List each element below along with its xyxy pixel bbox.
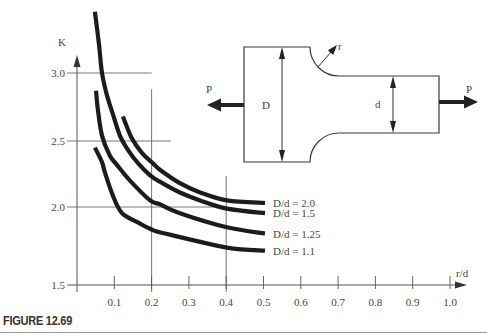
- arrow-up-icon: [390, 76, 396, 88]
- figure-caption: FIGURE 12.69: [3, 314, 72, 328]
- load-arrow-right: [439, 96, 478, 109]
- x-axis-arrow-icon: [455, 282, 467, 289]
- fillet-radius-label: r: [338, 40, 342, 52]
- arrow-down-icon: [390, 121, 396, 133]
- x-tick-label: 0.1: [107, 296, 121, 308]
- load-label-left: P: [206, 83, 212, 95]
- arrow-right-icon: [464, 96, 478, 109]
- y-tick-label: 2.0: [51, 201, 65, 213]
- x-tick-label: 0.5: [257, 296, 271, 308]
- divider: [0, 332, 487, 333]
- y-tick-labels: 1.52.02.53.0: [51, 67, 65, 291]
- specimen-diagram: D d r P P: [206, 40, 478, 162]
- x-ticks: 0.10.20.30.40.50.60.70.80.91.0: [107, 276, 457, 308]
- large-width-label: D: [262, 99, 270, 111]
- x-tick-label: 0.4: [219, 296, 233, 308]
- small-width-label: d: [375, 98, 381, 110]
- x-tick-label: 0.2: [145, 296, 159, 308]
- x-axis-label: r/d: [456, 267, 469, 279]
- x-tick-label: 1.0: [443, 296, 457, 308]
- x-tick-label: 0.9: [406, 296, 420, 308]
- series-labels: D/d = 2.0D/d = 1.5D/d = 1.25D/d = 1.1: [273, 197, 321, 257]
- arrow-down-icon: [279, 150, 285, 162]
- stepped-bar-outline: [244, 47, 439, 162]
- large-width-dimension: [279, 47, 285, 162]
- load-label-right: P: [466, 83, 472, 95]
- y-tick-label: 2.5: [51, 135, 65, 147]
- x-tick-label: 0.8: [369, 296, 383, 308]
- x-tick-label: 0.7: [331, 296, 345, 308]
- y-tick-label: 1.5: [51, 279, 65, 291]
- arrow-left-icon: [207, 99, 221, 112]
- series-label: D/d = 1.1: [273, 245, 315, 257]
- series-label: D/d = 1.25: [273, 228, 321, 240]
- stress-concentration-figure: 1.52.02.53.0 0.10.20.30.40.50.60.70.80.9…: [0, 0, 487, 336]
- y-axis-label: K: [58, 36, 66, 48]
- curves: [95, 12, 265, 251]
- curve-1.1: [95, 148, 265, 251]
- y-tick-label: 3.0: [51, 67, 65, 79]
- arrow-up-icon: [279, 47, 285, 59]
- load-arrow-left: [207, 99, 244, 112]
- guide-lines: [67, 73, 226, 292]
- x-axis: [67, 282, 467, 289]
- y-axis-arrow-icon: [74, 55, 81, 67]
- small-width-dimension: [390, 76, 396, 133]
- series-label: D/d = 1.5: [273, 207, 315, 219]
- x-tick-label: 0.6: [294, 296, 308, 308]
- x-tick-label: 0.3: [182, 296, 196, 308]
- fillet-radius-pointer: [318, 45, 337, 67]
- y-axis: [74, 55, 81, 292]
